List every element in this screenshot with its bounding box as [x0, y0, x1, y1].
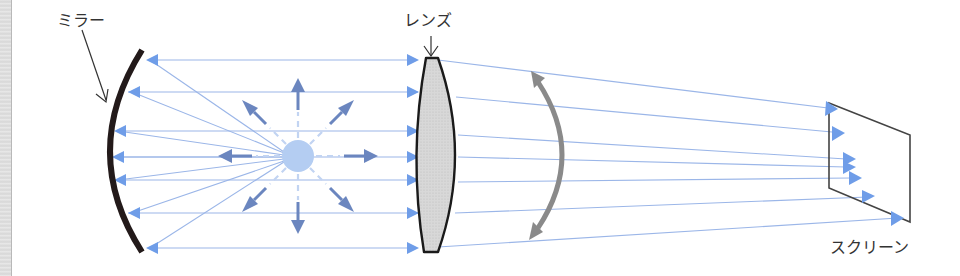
mirror-label: ミラー: [57, 13, 105, 29]
screen-arrowheads: [825, 101, 904, 226]
mirror-label-pointer: [82, 30, 106, 100]
source-to-mirror-rays: [116, 60, 284, 248]
light-source: [282, 140, 314, 172]
screen-label: スクリーン: [830, 240, 909, 256]
rotation-indicator: [529, 71, 562, 240]
mirror: [110, 50, 142, 252]
diagram-canvas: [0, 0, 960, 276]
lens-label: レンズ: [404, 13, 452, 29]
screen: [829, 103, 910, 222]
mirror-label-pointer-head: [96, 89, 108, 102]
optics-diagram: ミラー レンズ スクリーン: [0, 0, 960, 276]
lens: [416, 58, 455, 252]
mirror-arrowheads: [112, 54, 158, 254]
